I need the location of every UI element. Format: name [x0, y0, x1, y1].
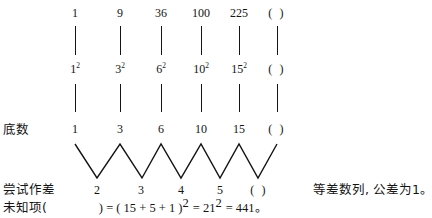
- conclusion-exponent-1: 2: [183, 196, 189, 210]
- difference-value-unknown: ( ): [243, 183, 275, 197]
- conclusion-suffix: ) = ( 15 + 5 + 1 ): [99, 201, 183, 215]
- conclusion-tail: = 441。: [226, 201, 268, 215]
- conclusion-line: 未知项( ) = ( 15 + 5 + 1 )2 = 212 = 441。: [3, 200, 268, 216]
- conclusion-exponent-2: 2: [215, 196, 221, 210]
- difference-value-1: 2: [82, 183, 112, 197]
- zigzag-path: [75, 144, 277, 178]
- arithmetic-sequence-note: 等差数列, 公差为1。: [313, 182, 432, 197]
- conclusion-prefix: 未知项(: [3, 200, 47, 215]
- differences-row-label: 尝试作差: [3, 182, 55, 197]
- difference-value-2: 3: [126, 183, 156, 197]
- conclusion-mid: = 21: [193, 201, 216, 215]
- difference-value-3: 4: [166, 183, 196, 197]
- figure-canvas: 1 9 36 100 225 ( ) 12 32 62 102 152 ( ) …: [0, 0, 432, 218]
